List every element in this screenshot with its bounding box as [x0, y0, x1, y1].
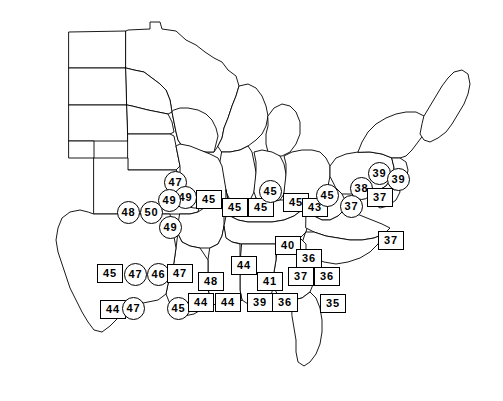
map-value-label: 44 — [215, 293, 241, 312]
map-value-label: 45 — [259, 180, 282, 203]
map-value-label: 37 — [340, 195, 363, 218]
map-value-label: 39 — [247, 293, 273, 312]
map-container: 4749494850494545454545434538373939373740… — [0, 0, 503, 401]
map-value-label: 47 — [124, 263, 147, 286]
map-value-label: 36 — [314, 267, 340, 286]
map-value-label: 47 — [122, 297, 145, 320]
map-value-label: 48 — [198, 272, 224, 291]
map-value-label: 37 — [288, 267, 314, 286]
map-value-label: 41 — [257, 272, 283, 291]
map-value-label: 49 — [159, 216, 182, 239]
map-value-label: 45 — [316, 184, 339, 207]
map-value-label: 44 — [231, 256, 257, 275]
map-value-label: 50 — [140, 201, 163, 224]
map-value-label: 48 — [117, 201, 140, 224]
map-value-label: 47 — [167, 264, 193, 283]
map-value-label: 36 — [296, 249, 322, 268]
map-value-label: 37 — [378, 231, 404, 250]
map-value-label: 36 — [272, 293, 298, 312]
map-value-label: 44 — [188, 293, 214, 312]
map-value-label: 45 — [222, 198, 248, 217]
map-value-label: 35 — [320, 294, 346, 313]
value-label-layer: 4749494850494545454545434538373939373740… — [0, 0, 503, 401]
map-value-label: 45 — [167, 297, 190, 320]
map-value-label: 45 — [196, 190, 222, 209]
map-value-label: 37 — [367, 188, 393, 207]
map-value-label: 45 — [97, 264, 123, 283]
